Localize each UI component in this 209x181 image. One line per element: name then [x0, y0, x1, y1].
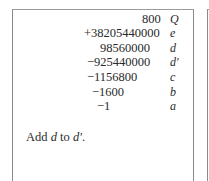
label-c: c — [170, 70, 175, 84]
value-d-prime: −925440000 — [87, 55, 150, 69]
value-q: 800 — [142, 12, 161, 26]
note-prefix: Add — [26, 130, 51, 144]
adjacent-frame — [207, 9, 209, 181]
value-e: +38205440000 — [84, 26, 160, 40]
label-e: e — [170, 26, 175, 40]
instruction-text: Add d to d′. — [26, 130, 85, 144]
note-suffix: . — [82, 130, 85, 144]
label-b: b — [170, 85, 176, 99]
label-d-prime: d′ — [170, 55, 179, 69]
label-q: Q — [170, 12, 179, 26]
label-a: a — [170, 99, 176, 113]
value-a: −1 — [97, 99, 110, 113]
note-middle: to — [57, 130, 73, 144]
value-b: −1600 — [92, 85, 124, 99]
label-d: d — [170, 41, 176, 55]
note-var-d-prime: d′ — [73, 130, 82, 144]
value-d: 98560000 — [100, 41, 150, 55]
value-c: −1156800 — [87, 70, 137, 84]
